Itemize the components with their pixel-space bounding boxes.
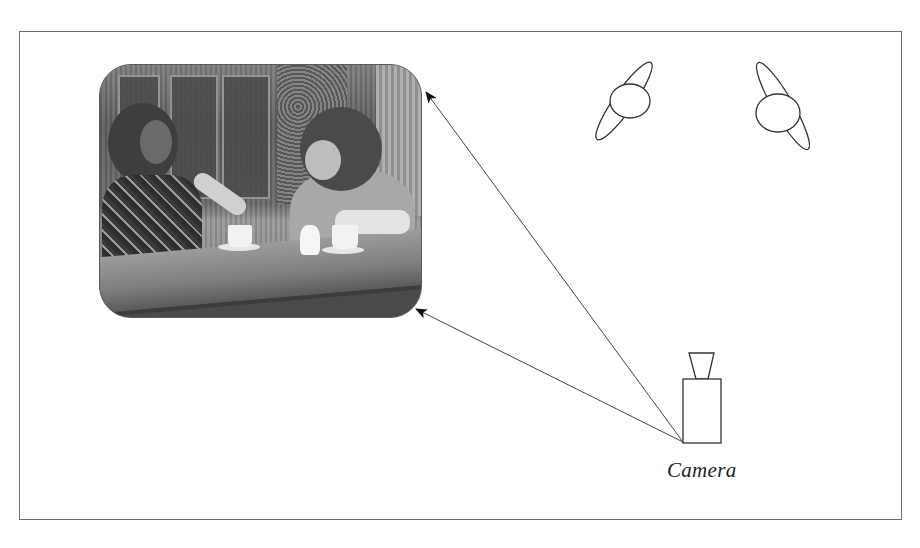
diagram-overlay (0, 0, 920, 548)
diagram-canvas: Camera (0, 0, 920, 548)
studio-light-icon (589, 57, 659, 145)
camera-icon (683, 353, 721, 443)
arrow-to-photo-bottom (416, 309, 683, 442)
arrow-to-photo-top (426, 92, 683, 442)
camera-label: Camera (667, 458, 736, 483)
studio-light-icon (749, 58, 816, 155)
